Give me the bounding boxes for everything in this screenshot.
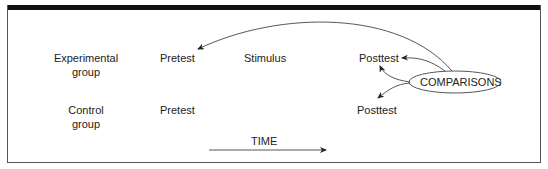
arrow-to-experimental-posttest xyxy=(402,58,445,71)
comparisons-ellipse xyxy=(409,71,501,93)
arrow-to-experimental-pretest xyxy=(198,22,452,71)
arrow-to-control-posttest xyxy=(378,83,410,98)
arrow-up-to-posttest xyxy=(380,66,410,82)
diagram-connectors xyxy=(0,0,548,169)
